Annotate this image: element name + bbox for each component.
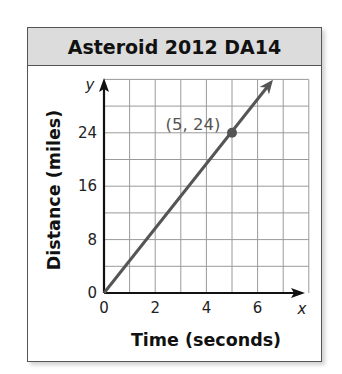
x-tick-label: 6 — [253, 299, 263, 317]
x-tick-label: 4 — [202, 299, 212, 317]
y-tick-label: 8 — [87, 231, 97, 249]
x-tick-label: 0 — [99, 299, 109, 317]
x-tick-label: 2 — [150, 299, 160, 317]
y-axis-label: Distance (miles) — [44, 110, 64, 270]
x-axis-label: Time (seconds) — [131, 330, 281, 350]
y-tick-label: 0 — [87, 284, 97, 302]
point-annotation: (5, 24) — [166, 115, 221, 134]
chart-plot: 0246081624 Distance (miles) Time (second… — [0, 0, 342, 374]
grid-lines — [104, 79, 309, 293]
y-tick-label: 24 — [78, 124, 97, 142]
tick-labels: 0246081624 — [78, 124, 262, 317]
y-variable-label: y — [85, 76, 96, 94]
y-tick-label: 16 — [78, 177, 97, 195]
x-variable-label: x — [297, 300, 307, 318]
data-point — [227, 128, 237, 138]
